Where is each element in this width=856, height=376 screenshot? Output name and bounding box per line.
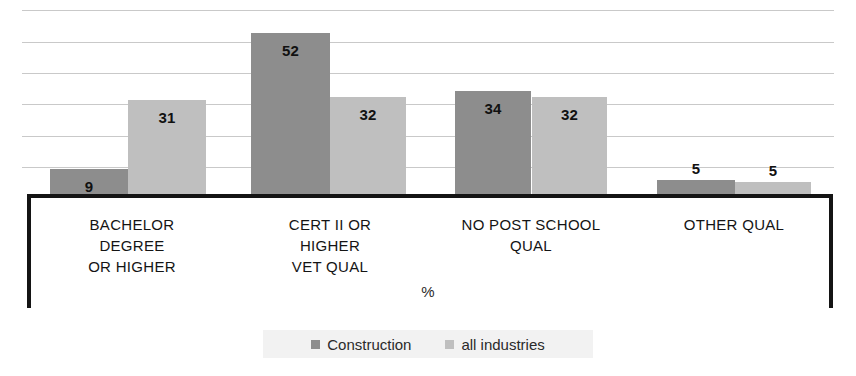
bar-value-label: 52: [251, 42, 330, 59]
legend: Construction all industries: [263, 330, 593, 358]
bar-value-label: 32: [532, 106, 607, 123]
bar-no-post-school-all-industries[interactable]: 32: [532, 97, 607, 196]
bar-value-label: 5: [735, 162, 811, 179]
plot-area: 9 31 52 32 34 32 5 5: [0, 0, 856, 196]
bar-value-label: 34: [455, 100, 531, 117]
percent-axis-label: %: [0, 283, 856, 300]
category-label-line: OR HIGHER: [27, 256, 237, 277]
category-label-no-post-school: NO POST SCHOOL QUAL: [425, 214, 637, 256]
legend-swatch-icon: [311, 340, 320, 349]
legend-label: Construction: [327, 336, 411, 353]
legend-label: all industries: [461, 336, 544, 353]
category-label-line: NO POST SCHOOL: [425, 214, 637, 235]
legend-item-all-industries[interactable]: all industries: [445, 336, 544, 353]
bar-cert2-construction[interactable]: 52: [251, 33, 330, 196]
bar-value-label: 5: [657, 160, 735, 177]
bar-bachelor-construction[interactable]: 9: [50, 169, 128, 196]
category-label-cert2: CERT II OR HIGHER VET QUAL: [232, 214, 428, 277]
bars-layer: 9 31 52 32 34 32 5 5: [0, 0, 856, 196]
category-label-bachelor: BACHELOR DEGREE OR HIGHER: [27, 214, 237, 277]
bar-value-label: 31: [128, 109, 206, 126]
legend-swatch-icon: [445, 340, 454, 349]
category-label-line: QUAL: [425, 235, 637, 256]
bar-chart: 9 31 52 32 34 32 5 5: [0, 0, 856, 376]
category-label-line: DEGREE: [27, 235, 237, 256]
category-axis-labels: BACHELOR DEGREE OR HIGHER CERT II OR HIG…: [27, 200, 833, 280]
bar-cert2-all-industries[interactable]: 32: [330, 97, 406, 196]
bar-bachelor-all-industries[interactable]: 31: [128, 100, 206, 196]
category-label-line: OTHER QUAL: [635, 214, 833, 235]
category-label-other-qual: OTHER QUAL: [635, 214, 833, 235]
category-label-line: VET QUAL: [232, 256, 428, 277]
legend-item-construction[interactable]: Construction: [311, 336, 411, 353]
bar-no-post-school-construction[interactable]: 34: [455, 91, 531, 196]
category-label-line: HIGHER: [232, 235, 428, 256]
category-label-line: CERT II OR: [232, 214, 428, 235]
bar-value-label: 9: [50, 178, 128, 195]
category-label-line: BACHELOR: [27, 214, 237, 235]
bar-value-label: 32: [330, 106, 406, 123]
